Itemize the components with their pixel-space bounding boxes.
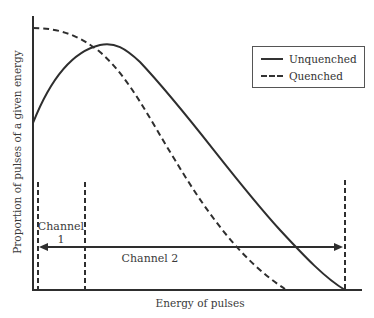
- arrow-right-head: [334, 243, 343, 251]
- dashed-line-swatch-icon: [261, 75, 283, 77]
- arrow-left-head: [39, 243, 48, 251]
- legend-label: Unquenched: [289, 53, 357, 65]
- legend: Unquenched Quenched: [252, 46, 365, 88]
- y-axis-label: Proportion of pulses of a given energy: [11, 50, 23, 254]
- x-axis-label: Energy of pulses: [155, 297, 244, 309]
- legend-item-quenched: Quenched: [261, 70, 343, 82]
- legend-label: Quenched: [289, 70, 343, 82]
- channel1-label-line2: 1: [58, 233, 65, 246]
- channel1-label-line1: Channel: [38, 220, 85, 233]
- solid-line-swatch-icon: [261, 58, 283, 60]
- legend-item-unquenched: Unquenched: [261, 53, 357, 65]
- channel2-label: Channel 2: [122, 252, 179, 265]
- quenched-curve: [33, 28, 285, 289]
